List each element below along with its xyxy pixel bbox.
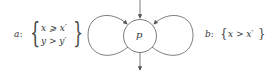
- loop-b-left-brace: {: [220, 28, 228, 40]
- loop-a-constraint-1: x ⩾ x′: [41, 24, 67, 33]
- loop-b-right-brace: }: [258, 28, 266, 40]
- loop-b-name: b:: [205, 30, 214, 39]
- loop-a-name: a:: [14, 30, 22, 39]
- loop-b-colon: :: [211, 29, 214, 39]
- loop-a-colon: :: [19, 29, 22, 39]
- loop-b-constraint-1: x > x′: [228, 30, 253, 39]
- loop-a-left-brace: {: [30, 19, 40, 46]
- node-label: p: [136, 30, 142, 40]
- self-loop-a: [88, 15, 128, 55]
- self-loop-b: [152, 15, 193, 55]
- loop-a-constraint-2: y > y′: [41, 37, 66, 46]
- loop-a-right-brace: }: [73, 19, 83, 46]
